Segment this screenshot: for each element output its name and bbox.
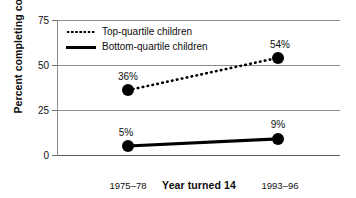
y-tick-mark-0 xyxy=(52,155,57,156)
data-label-top-quartile-1993-96: 54% xyxy=(270,39,290,50)
y-tick-mark-75 xyxy=(52,20,57,21)
legend-item-bottom-quartile: Bottom-quartile children xyxy=(66,39,246,54)
y-tick-label-75: 75 xyxy=(38,15,49,26)
x-axis-title: Year turned 14 xyxy=(58,179,340,191)
data-point-top-quartile-1993-96 xyxy=(272,52,284,64)
y-tick-mark-25 xyxy=(52,110,57,111)
data-label-bottom-quartile-1993-96: 9% xyxy=(271,119,285,130)
data-point-bottom-quartile-1993-96 xyxy=(272,133,284,145)
data-point-bottom-quartile-1975-78 xyxy=(122,140,134,152)
y-tick-label-25: 25 xyxy=(38,105,49,116)
solid-line-icon xyxy=(66,42,96,52)
gridline-0 xyxy=(58,155,340,156)
y-tick-label-50: 50 xyxy=(38,60,49,71)
dotted-line-icon xyxy=(66,27,96,37)
legend-item-top-quartile: Top-quartile children xyxy=(66,24,246,39)
y-axis-title: Percent completing college xyxy=(12,0,24,114)
legend-label-bottom-quartile: Bottom-quartile children xyxy=(102,41,208,52)
y-tick-mark-50 xyxy=(52,65,57,66)
top-quartile-line xyxy=(128,58,278,90)
chart-figure: Percent completing college 75 50 25 0 xyxy=(0,0,356,198)
bottom-quartile-line xyxy=(128,139,278,146)
data-label-top-quartile-1975-78: 36% xyxy=(118,71,138,82)
y-tick-label-0: 0 xyxy=(43,150,49,161)
legend-label-top-quartile: Top-quartile children xyxy=(102,26,192,37)
legend: Top-quartile children Bottom-quartile ch… xyxy=(66,24,246,54)
data-label-bottom-quartile-1975-78: 5% xyxy=(119,127,133,138)
